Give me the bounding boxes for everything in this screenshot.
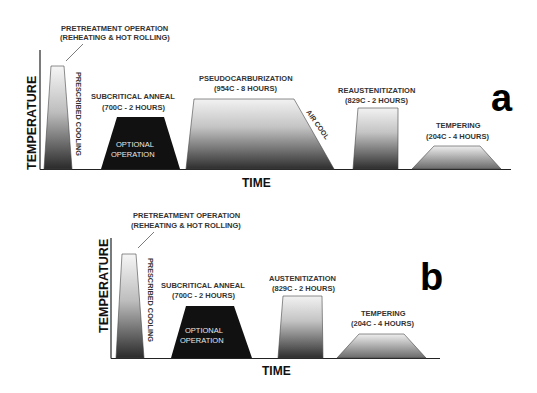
panel-letter-b: b xyxy=(420,256,443,298)
aust-label-2-b: (829C - 2 HOURS) xyxy=(272,284,335,293)
reaust-label-1-a: REAUSTENITIZATION xyxy=(338,86,415,95)
panel-a: TEMPERATURE TIME PRETREATMENT OPERATION … xyxy=(25,24,513,190)
subcritical-label-2-a: (700C - 2 HOURS) xyxy=(102,103,165,112)
panel-b: TEMPERATURE TIME PRETREATMENT OPERATION … xyxy=(97,211,443,378)
pseudocarb-label-1-a: PSEUDOCARBURIZATION xyxy=(199,74,293,83)
prescribed-cooling-label-a: PRESCRIBED COOLING xyxy=(74,72,83,156)
tempering-label-1-b: TEMPERING xyxy=(361,309,406,318)
tempering-label-2-b: (204C - 4 HOURS) xyxy=(351,319,414,328)
panel-letter-a: a xyxy=(491,77,513,119)
heat-treatment-diagram: TEMPERATURE TIME PRETREATMENT OPERATION … xyxy=(0,0,537,393)
subcritical-label-2-b: (700C - 2 HOURS) xyxy=(172,291,235,300)
pretreatment-step-a xyxy=(44,66,72,169)
optional-label-2-b: OPERATION xyxy=(180,336,224,345)
reaustenitization-step-a xyxy=(353,108,398,169)
pretreatment-label-2-b: (REHEATING & HOT ROLLING) xyxy=(131,221,241,230)
tempering-step-b xyxy=(337,334,426,358)
pretreatment-step-b xyxy=(116,254,144,358)
y-axis-label-a: TEMPERATURE xyxy=(25,76,39,170)
tempering-step-a xyxy=(412,146,501,169)
pretreatment-leader-a xyxy=(66,44,83,61)
tempering-label-1-a: TEMPERING xyxy=(436,121,481,130)
prescribed-cooling-label-b: PRESCRIBED COOLING xyxy=(146,258,155,342)
subcritical-label-1-b: SUBCRITICAL ANNEAL xyxy=(161,281,245,290)
pretreatment-label-1-b: PRETREATMENT OPERATION xyxy=(133,211,240,220)
pseudocarb-label-2-a: (954C - 8 HOURS) xyxy=(214,84,277,93)
y-axis-label-b: TEMPERATURE xyxy=(97,239,111,333)
optional-label-1-a: OPTIONAL xyxy=(116,140,154,149)
pretreatment-label-1-a: PRETREATMENT OPERATION xyxy=(61,24,168,33)
pretreatment-leader-b xyxy=(138,232,154,248)
x-axis-label-a: TIME xyxy=(242,176,271,190)
austenitization-step-b xyxy=(278,296,323,358)
tempering-label-2-a: (204C - 4 HOURS) xyxy=(426,132,489,141)
pretreatment-label-2-a: (REHEATING & HOT ROLLING) xyxy=(60,33,170,42)
x-axis-label-b: TIME xyxy=(262,364,291,378)
optional-label-2-a: OPERATION xyxy=(111,150,155,159)
subcritical-label-1-a: SUBCRITICAL ANNEAL xyxy=(91,92,175,101)
optional-label-1-b: OPTIONAL xyxy=(185,326,223,335)
aust-label-1-b: AUSTENITIZATION xyxy=(269,274,336,283)
reaust-label-2-a: (829C - 2 HOURS) xyxy=(345,96,408,105)
